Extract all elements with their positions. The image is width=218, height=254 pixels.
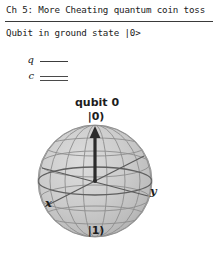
bloch-label-ket-zero: |0): [0, 110, 205, 123]
quantum-wire-line: [40, 61, 68, 62]
circuit-wire-classical: c: [0, 70, 218, 90]
bloch-label-ket-one: |1): [0, 224, 205, 237]
wire-label-q: q: [22, 54, 34, 65]
bloch-sphere-title: qubit 0: [0, 96, 206, 109]
status-text: Qubit in ground state |0>: [6, 27, 141, 38]
bloch-sphere-graphic: [36, 124, 154, 240]
bloch-sphere-figure: qubit 0 |0): [0, 96, 218, 254]
bloch-axis-label-x: x: [45, 196, 52, 210]
classical-wire-line: [40, 76, 68, 81]
bloch-axis-label-y: y: [150, 184, 157, 198]
wire-label-c: c: [22, 70, 34, 81]
circuit-diagram: q c: [0, 44, 218, 92]
page-title: Ch 5: More Cheating quantum coin toss: [6, 4, 205, 15]
header-divider: [5, 21, 213, 22]
